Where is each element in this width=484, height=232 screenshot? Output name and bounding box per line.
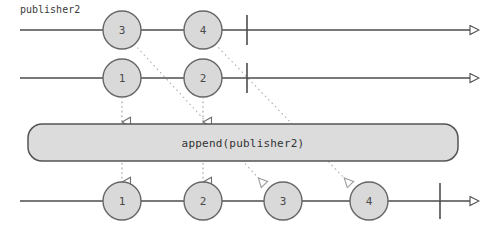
diagonal-connectors — [134, 44, 350, 184]
marble-diagram: 3 4 1 2 app — [0, 0, 484, 232]
marble[interactable]: 1 — [103, 59, 141, 97]
straight-connectors-out — [122, 163, 203, 182]
marble[interactable]: 2 — [184, 182, 222, 220]
marble[interactable]: 4 — [184, 11, 222, 49]
output-timeline: 1 2 3 4 — [20, 182, 470, 220]
marble-value: 4 — [366, 195, 373, 208]
marble[interactable]: 1 — [103, 182, 141, 220]
marble-value: 2 — [200, 195, 207, 208]
operator-box[interactable]: append(publisher2) — [28, 124, 458, 161]
marble-value: 2 — [200, 72, 207, 85]
publisher2-label: publisher2 — [20, 4, 80, 15]
connector-4 — [215, 44, 350, 184]
marble[interactable]: 2 — [184, 59, 222, 97]
marble-value: 1 — [119, 72, 126, 85]
diagram-canvas: 3 4 1 2 app — [0, 0, 484, 232]
publisher2-timeline: 3 4 — [20, 11, 470, 49]
marble[interactable]: 3 — [264, 182, 302, 220]
operator-label: append(publisher2) — [182, 137, 305, 150]
marble[interactable]: 3 — [103, 11, 141, 49]
publisher1-timeline: 1 2 — [20, 59, 470, 97]
straight-connectors-in — [122, 97, 203, 122]
marble-value: 3 — [119, 24, 126, 37]
marble-value: 1 — [119, 195, 126, 208]
marble-value: 3 — [280, 195, 287, 208]
marble[interactable]: 4 — [350, 182, 388, 220]
marble-value: 4 — [200, 24, 207, 37]
